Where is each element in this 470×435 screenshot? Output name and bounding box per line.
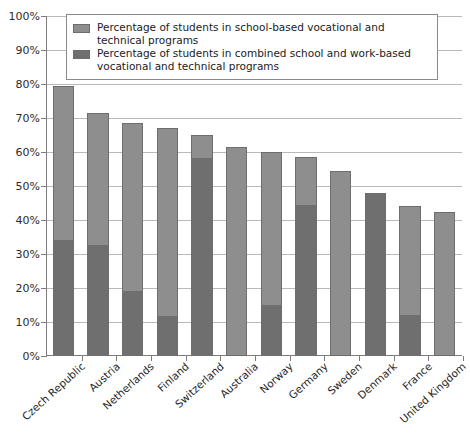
legend-swatch-combined-icon — [73, 50, 90, 59]
y-axis-tick-label: 0% — [0, 350, 40, 363]
x-axis-tick — [463, 356, 464, 361]
x-axis-labels: Czech RepublicAustriaNetherlandsFinlandS… — [46, 360, 462, 435]
legend-label-school-based: Percentage of students in school-based v… — [97, 21, 431, 46]
stacked-bar[interactable] — [434, 212, 455, 357]
bar-segment-school-based[interactable] — [158, 129, 177, 316]
bar-segment-combined[interactable] — [54, 240, 73, 355]
bar-segment-combined[interactable] — [400, 315, 419, 355]
legend-label-combined: Percentage of students in combined schoo… — [97, 47, 431, 72]
y-axis-tick-label: 10% — [0, 316, 40, 329]
y-axis-tick-label: 20% — [0, 282, 40, 295]
bar-segment-combined[interactable] — [296, 205, 315, 355]
bar-segment-combined[interactable] — [158, 316, 177, 355]
bar-segment-school-based[interactable] — [192, 136, 211, 158]
stacked-bar[interactable] — [122, 123, 143, 356]
bar-segment-school-based[interactable] — [227, 148, 246, 355]
y-axis-tick-label: 100% — [0, 10, 40, 23]
stacked-bar[interactable] — [261, 152, 282, 356]
bar-segment-combined[interactable] — [192, 158, 211, 355]
y-axis-tick-label: 30% — [0, 248, 40, 261]
y-axis-tick-label: 70% — [0, 112, 40, 125]
stacked-bar[interactable] — [295, 157, 316, 356]
y-axis-tick-label: 60% — [0, 146, 40, 159]
bar-segment-school-based[interactable] — [262, 153, 281, 305]
y-axis-tick-label: 90% — [0, 44, 40, 57]
y-axis-labels: 0%10%20%30%40%50%60%70%80%90%100% — [0, 16, 42, 356]
stacked-bar[interactable] — [53, 86, 74, 356]
chart-legend: Percentage of students in school-based v… — [66, 14, 438, 80]
legend-item-combined: Percentage of students in combined schoo… — [73, 47, 431, 72]
legend-swatch-school-based-icon — [73, 24, 90, 33]
bar-segment-school-based[interactable] — [123, 124, 142, 291]
y-axis-tick-label: 40% — [0, 214, 40, 227]
bar-segment-combined[interactable] — [366, 194, 385, 355]
y-axis-tick-label: 80% — [0, 78, 40, 91]
stacked-bar[interactable] — [330, 171, 351, 356]
x-axis-label: Czech Republic — [20, 360, 87, 422]
bar-segment-school-based[interactable] — [296, 158, 315, 205]
stacked-bar[interactable] — [191, 135, 212, 356]
bar-segment-school-based[interactable] — [54, 87, 73, 241]
bar-segment-school-based[interactable] — [88, 114, 107, 246]
legend-item-school-based: Percentage of students in school-based v… — [73, 21, 431, 46]
bar-segment-school-based[interactable] — [435, 213, 454, 356]
stacked-bar[interactable] — [365, 193, 386, 356]
stacked-bar[interactable] — [87, 113, 108, 356]
stacked-bar[interactable] — [157, 128, 178, 356]
stacked-bar[interactable] — [226, 147, 247, 356]
y-axis-tick — [41, 356, 47, 357]
bar-segment-school-based[interactable] — [400, 207, 419, 314]
y-axis-tick-label: 50% — [0, 180, 40, 193]
bar-segment-school-based[interactable] — [331, 172, 350, 355]
bar-segment-combined[interactable] — [262, 305, 281, 356]
bar-segment-combined[interactable] — [123, 291, 142, 355]
stacked-bar-chart: 0%10%20%30%40%50%60%70%80%90%100% Czech … — [0, 0, 470, 435]
stacked-bar[interactable] — [399, 206, 420, 356]
bar-segment-combined[interactable] — [88, 245, 107, 355]
